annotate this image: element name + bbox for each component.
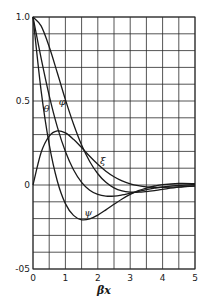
x-tick-label: 3 [127, 273, 133, 283]
x-tick-label: 5 [192, 273, 198, 283]
curve-label: θ [44, 103, 50, 114]
x-axis-label: βx [96, 284, 111, 297]
x-tick-label: 4 [160, 273, 166, 283]
line-chart: 1.00.50-05 012345 φθξψ βx [0, 0, 207, 303]
y-tick-label: 0.5 [16, 96, 30, 106]
curve-label: ψ [84, 207, 92, 218]
x-tick-label: 2 [95, 273, 101, 283]
x-axis-ticks: 012345 [30, 273, 198, 283]
curve-labels: φθξψ [44, 96, 106, 218]
chart-grid [33, 17, 195, 269]
curve-label: φ [59, 96, 66, 107]
curve-label: ξ [100, 155, 106, 166]
y-tick-label: -05 [15, 264, 30, 274]
y-tick-label: 1.0 [16, 12, 31, 22]
x-tick-label: 0 [30, 273, 36, 283]
y-axis-ticks: 1.00.50-05 [15, 12, 30, 274]
x-tick-label: 1 [63, 273, 69, 283]
y-tick-label: 0 [24, 180, 30, 190]
